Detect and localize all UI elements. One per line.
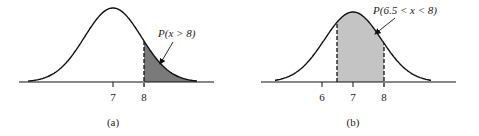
panel-label-a: (a) [107,116,120,129]
shaded-area-right-tail [144,41,197,82]
tick-label-8: 8 [381,91,387,103]
panel-b: 6 7 8 P(6.5 < x < 8) (b) [261,4,456,129]
annotation-arrow [375,18,395,34]
figure: 7 8 P(x > 8) (a) 6 7 8 P(6.5 < x < 8) (b… [0,0,479,136]
tick-label-6: 6 [319,91,325,103]
tick-label-7: 7 [350,91,356,103]
annotation-p-between: P(6.5 < x < 8) [372,4,437,17]
panel-a: 7 8 P(x > 8) (a) [19,8,214,129]
tick-label-8: 8 [141,91,147,103]
annotation-p-x-gt-8: P(x > 8) [157,27,196,40]
panel-label-b: (b) [347,116,360,129]
shaded-area-between [337,12,384,82]
tick-label-7: 7 [110,91,116,103]
annotation-arrow [160,42,173,64]
